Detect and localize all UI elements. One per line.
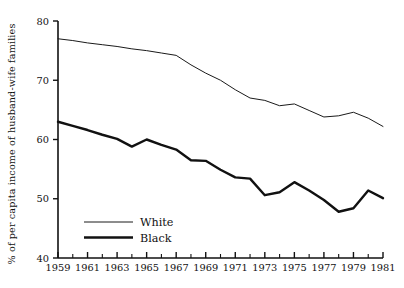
x-axis-ticks: 1959196119631965196719691971197319751977…	[46, 252, 396, 273]
x-tick-label: 1959	[46, 262, 71, 273]
x-tick-label: 1979	[341, 262, 366, 273]
x-tick-label: 1963	[105, 262, 130, 273]
x-tick-label: 1977	[311, 262, 336, 273]
y-tick-label: 70	[37, 75, 49, 86]
y-tick-label: 50	[37, 193, 49, 204]
x-tick-label: 1975	[282, 262, 307, 273]
y-tick-label: 60	[37, 134, 49, 145]
chart-legend: WhiteBlack	[84, 216, 174, 245]
x-tick-label: 1969	[193, 262, 218, 273]
data-line-white	[58, 39, 383, 127]
x-tick-label: 1967	[164, 262, 189, 273]
data-line-black	[58, 122, 383, 212]
legend-label-black: Black	[140, 232, 172, 245]
x-tick-label: 1971	[223, 262, 248, 273]
legend-label-white: White	[140, 216, 174, 229]
x-tick-label: 1961	[75, 262, 100, 273]
x-tick-label: 1973	[252, 262, 277, 273]
y-tick-label: 80	[37, 16, 49, 27]
data-series-group	[58, 39, 383, 212]
x-tick-label: 1981	[371, 262, 396, 273]
x-tick-label: 1965	[134, 262, 159, 273]
y-axis-ticks: 4050607080	[37, 16, 58, 264]
chart-page: % of per capita income of husband-wife f…	[0, 0, 404, 288]
line-chart-plot: 4050607080 19591961196319651967196919711…	[0, 0, 404, 288]
